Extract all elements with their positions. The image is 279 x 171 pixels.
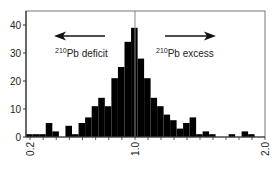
- histogram-bar: [85, 117, 92, 137]
- histogram-bar: [131, 28, 138, 137]
- y-tick-label: 30: [10, 48, 22, 59]
- x-tick-label: 0.2: [25, 142, 36, 156]
- histogram-bar: [138, 59, 145, 137]
- chart-canvas: 010203040 0.21.02.0 210Pb deficit210Pb e…: [0, 0, 279, 171]
- annotation-deficit: 210Pb deficit: [55, 47, 108, 59]
- histogram-bar: [151, 98, 158, 137]
- y-tick-label: 20: [10, 76, 22, 87]
- histogram-bar: [203, 131, 210, 137]
- y-axis: 010203040: [10, 11, 26, 143]
- x-tick-label: 2.0: [260, 142, 271, 156]
- histogram-bar: [52, 131, 59, 137]
- histogram-bar: [46, 123, 53, 137]
- histogram-bar: [98, 98, 105, 137]
- histogram-bar: [242, 131, 249, 137]
- histogram-bar: [105, 106, 112, 137]
- histogram-bar: [190, 117, 197, 137]
- histogram-bar: [170, 120, 177, 137]
- histogram-bar: [144, 78, 151, 137]
- y-tick-label: 40: [10, 20, 22, 31]
- histogram-bar: [157, 106, 164, 137]
- histogram-bar: [79, 123, 86, 137]
- histogram-bar: [118, 67, 125, 137]
- histogram-bars: [26, 28, 255, 137]
- histogram-bar: [177, 129, 184, 137]
- x-axis: 0.21.02.0: [25, 137, 271, 156]
- y-tick-label: 0: [15, 132, 21, 143]
- histogram-bar: [111, 78, 118, 137]
- x-tick-label: 1.0: [130, 142, 141, 156]
- annotation-excess: 210Pb excess: [156, 47, 214, 59]
- histogram-bar: [125, 42, 132, 137]
- y-tick-label: 10: [10, 104, 22, 115]
- histogram-bar: [65, 126, 72, 137]
- histogram-chart: 010203040 0.21.02.0 210Pb deficit210Pb e…: [0, 0, 279, 171]
- histogram-bar: [164, 115, 171, 137]
- histogram-bar: [92, 106, 99, 137]
- histogram-bar: [183, 123, 190, 137]
